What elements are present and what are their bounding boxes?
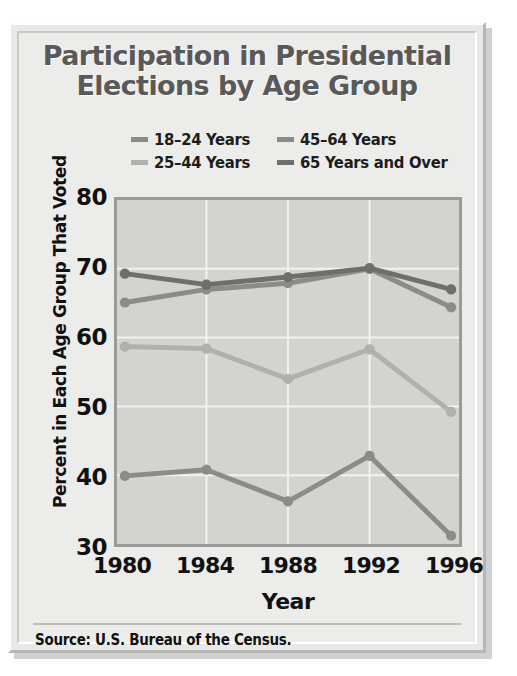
x-axis-tick-label: 1996: [425, 553, 483, 578]
chart-title-line-2: Elections by Age Group: [19, 71, 475, 101]
data-point-marker: [283, 496, 293, 506]
chart-title: Participation in Presidential Elections …: [19, 41, 475, 101]
x-axis-tick-label: 1988: [259, 553, 317, 578]
legend-item: 18–24 Years: [131, 130, 277, 149]
data-point-marker: [120, 297, 130, 307]
y-axis-tick-label: 80: [76, 184, 107, 210]
legend-swatch-icon: [277, 137, 294, 142]
y-axis-tick-label: 70: [76, 254, 107, 280]
legend-item: 65 Years and Over: [277, 153, 437, 172]
y-axis-title: Percent in Each Age Group That Voted: [50, 178, 70, 508]
data-point-marker: [364, 451, 374, 461]
data-point-marker: [201, 465, 211, 475]
source-note: Source: U.S. Bureau of the Census.: [35, 631, 291, 649]
plot-frame: [114, 197, 462, 547]
data-point-marker: [446, 284, 456, 294]
data-point-marker: [446, 531, 456, 541]
data-point-marker: [283, 272, 293, 282]
legend-label: 65 Years and Over: [300, 153, 447, 172]
footer-divider: [33, 623, 461, 625]
y-axis-tick-label: 50: [76, 394, 107, 420]
data-point-marker: [201, 280, 211, 290]
data-point-marker: [446, 407, 456, 417]
chart-panel: Participation in Presidential Elections …: [8, 22, 486, 653]
data-point-marker: [201, 343, 211, 353]
legend-label: 18–24 Years: [154, 130, 250, 149]
data-point-marker: [120, 341, 130, 351]
y-axis-tick-label: 40: [76, 464, 107, 490]
data-point-marker: [120, 471, 130, 481]
data-point-marker: [446, 302, 456, 312]
line-chart-canvas: [117, 200, 459, 544]
x-axis-tick-label: 1992: [342, 553, 400, 578]
legend-swatch-icon: [131, 137, 148, 142]
x-axis-title: Year: [114, 589, 462, 614]
y-axis-tick-label: 60: [76, 324, 107, 350]
data-point-marker: [283, 374, 293, 384]
chart-legend: 18–24 Years45–64 Years25–44 Years65 Year…: [131, 128, 431, 174]
legend-label: 25–44 Years: [154, 153, 250, 172]
data-point-marker: [364, 344, 374, 354]
data-point-marker: [364, 263, 374, 273]
legend-item: 25–44 Years: [131, 153, 277, 172]
x-axis-tick-label: 1984: [176, 553, 234, 578]
data-point-marker: [120, 269, 130, 279]
legend-item: 45–64 Years: [277, 130, 437, 149]
legend-swatch-icon: [131, 160, 148, 165]
x-axis-tick-label: 1980: [93, 553, 151, 578]
chart-plot-area: 80706050403019801984198819921996: [114, 197, 462, 547]
legend-label: 45–64 Years: [300, 130, 396, 149]
chart-panel-inner: Participation in Presidential Elections …: [17, 31, 477, 644]
legend-swatch-icon: [277, 160, 294, 165]
chart-title-line-1: Participation in Presidential: [19, 41, 475, 71]
